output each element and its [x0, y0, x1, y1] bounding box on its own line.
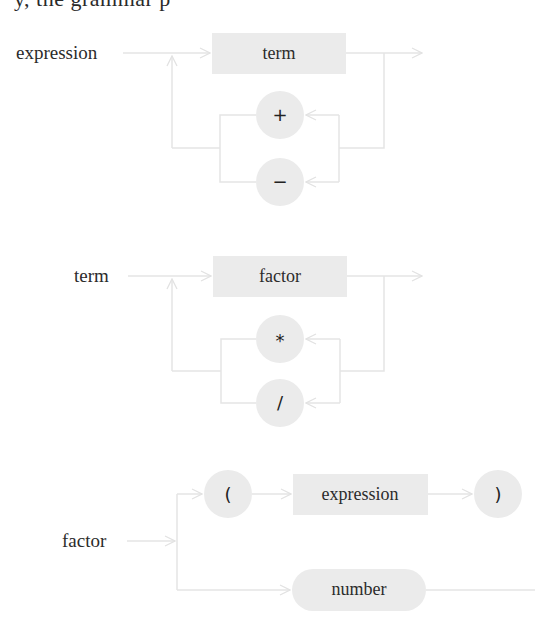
- rule-label-factor: factor: [62, 530, 107, 551]
- node-factor-label: factor: [259, 266, 301, 286]
- diagram-term: term factor * /: [74, 256, 422, 427]
- node-minus-label: −: [272, 171, 287, 192]
- rule-label-term: term: [74, 265, 109, 286]
- railroad-diagrams: expression term + − term: [0, 0, 535, 635]
- node-lparen-label: (: [224, 484, 231, 505]
- node-divide-label: /: [277, 392, 284, 413]
- node-times-label: *: [276, 330, 285, 351]
- node-expression-label: expression: [322, 484, 399, 504]
- rule-label-expression: expression: [16, 42, 98, 63]
- node-plus-label: +: [272, 104, 287, 125]
- diagram-factor: factor ( expression ) number: [62, 470, 535, 611]
- diagram-expression: expression term + −: [16, 33, 422, 206]
- node-number-label: number: [332, 579, 387, 599]
- node-rparen-label: ): [494, 484, 501, 505]
- node-term-label: term: [263, 43, 296, 63]
